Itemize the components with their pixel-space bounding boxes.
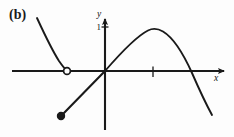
y-tick-label-1: 1 (97, 22, 102, 32)
figure-panel: (b) y 1 x (0, 0, 234, 137)
graph-canvas: y 1 x (0, 0, 234, 137)
curve-left-decreasing-branch (37, 18, 67, 70)
filled-circle-endpoint (57, 112, 64, 119)
x-axis-label: x (213, 73, 219, 83)
curve-line-segment-through-origin (62, 71, 106, 116)
open-circle-endpoint (64, 68, 71, 75)
y-axis-label: y (96, 9, 102, 19)
